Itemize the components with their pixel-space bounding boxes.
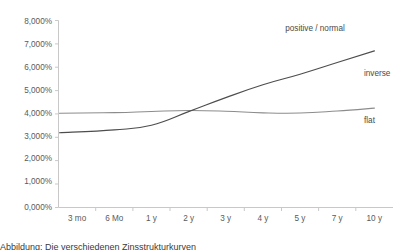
y-tick-label: 6,000% (24, 63, 52, 72)
figure-caption: Abbildung: Die verschiedenen Zinsstruktu… (0, 243, 412, 250)
y-tick-label: 7,000% (24, 40, 52, 49)
series-label-flat: flat (364, 116, 376, 125)
figure-caption-text: Abbildung: Die verschiedenen Zinsstruktu… (0, 243, 412, 250)
y-axis-ticks (55, 21, 59, 208)
x-tick-label: 3 y (220, 214, 232, 223)
x-tick-label: 10 y (367, 214, 383, 223)
x-tick-label: 4 y (257, 214, 269, 223)
y-tick-label: 2,000% (24, 154, 52, 163)
series-label-inverse: inverse (364, 69, 391, 78)
x-tick-label: 5 y (295, 214, 307, 223)
y-tick-label: 3,000% (24, 132, 52, 141)
series-line-positive-normal (60, 51, 375, 133)
x-tick-label: 3 mo (68, 214, 87, 223)
x-tick-label: 6 Mo (105, 214, 124, 223)
chart-svg: 8,000% 7,000% 6,000% 5,000% 4,000% 3,000… (0, 0, 412, 250)
y-tick-label: 1,000% (24, 177, 52, 186)
y-tick-label: 0,000% (24, 203, 52, 212)
x-tick-label: 7 y (332, 214, 344, 223)
yield-curve-chart: 8,000% 7,000% 6,000% 5,000% 4,000% 3,000… (0, 0, 412, 250)
series-label-positive-normal: positive / normal (285, 24, 345, 33)
series-line-flat (60, 108, 375, 113)
y-tick-label: 8,000% (24, 17, 52, 26)
x-tick-label: 1 y (146, 214, 158, 223)
x-axis-ticks (96, 208, 356, 212)
y-axis-tick-labels: 8,000% 7,000% 6,000% 5,000% 4,000% 3,000… (24, 17, 52, 212)
y-tick-label: 5,000% (24, 86, 52, 95)
x-axis-tick-labels: 3 mo 6 Mo 1 y 2 y 3 y 4 y 5 y 7 y 10 y (68, 214, 383, 223)
y-tick-label: 4,000% (24, 109, 52, 118)
x-tick-label: 2 y (183, 214, 195, 223)
